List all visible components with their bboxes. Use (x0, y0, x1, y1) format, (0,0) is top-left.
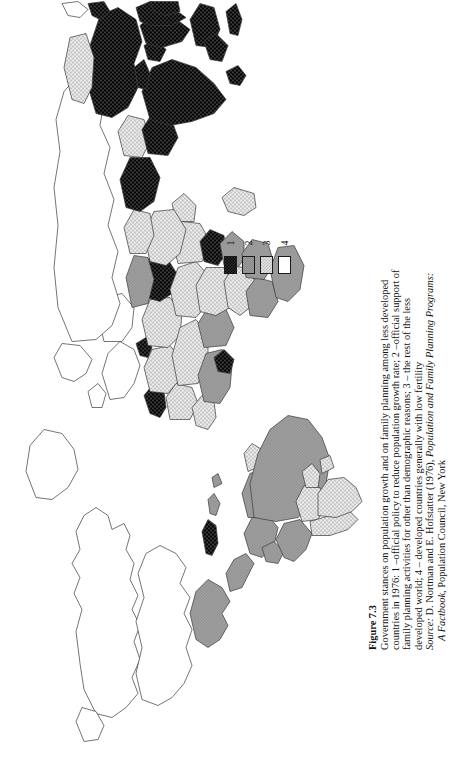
source-label: Source: (423, 618, 434, 650)
region-united-states (136, 545, 192, 705)
legend-swatch-1 (224, 256, 237, 274)
figure-number: Figure 7.3 (366, 110, 378, 650)
legend-swatch-2 (242, 256, 255, 274)
source-authors: D. Nortman and E. Hofstatter (1976), (423, 457, 434, 618)
caption-line-3: family planning activities for other tha… (400, 110, 411, 650)
source-title-part-1: Population and Family Planning Programs: (423, 272, 434, 456)
source-publisher: , Population Council, New York (435, 459, 446, 592)
source-title-part-2: A Factbook (435, 593, 446, 641)
figure-caption-panel: Figure 7.3 Government stances on populat… (366, 0, 465, 759)
legend-swatch-3 (260, 256, 273, 274)
caption-line-1: Government stances on population growth … (378, 110, 389, 650)
legend-label-2: 2 (242, 234, 255, 252)
figure-page: 1 2 3 4 Figure 7.3 Government stances on… (0, 0, 465, 759)
legend-swatch-4 (278, 256, 291, 274)
map-legend: 1 2 3 4 (218, 232, 290, 284)
caption-line-4: developed world; 4 – developed countries… (412, 110, 423, 650)
legend-label-1: 1 (224, 234, 237, 252)
caption-line-2: countries in 1976: 1 –official policy to… (389, 110, 400, 650)
legend-swatches-row (224, 256, 291, 274)
source-line-1: Source: D. Nortman and E. Hofstatter (19… (423, 110, 434, 650)
legend-label-4: 4 (278, 234, 291, 252)
legend-label-3: 3 (260, 234, 273, 252)
map-rotation-wrapper (0, 0, 370, 759)
source-line-2: A Factbook, Population Council, New York (435, 110, 446, 650)
caption-text-block: Figure 7.3 Government stances on populat… (366, 110, 446, 650)
caption-rotation-wrapper: Figure 7.3 Government stances on populat… (366, 110, 465, 650)
legend-inner: 1 2 3 4 (218, 232, 290, 284)
legend-labels-row: 1 2 3 4 (224, 234, 291, 252)
map-panel (0, 0, 370, 759)
world-choropleth-map (0, 0, 370, 759)
